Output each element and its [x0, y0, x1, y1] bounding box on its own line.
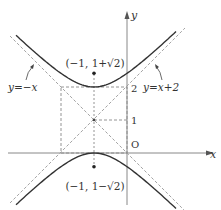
origin-label: O: [131, 139, 139, 150]
focus-lower-dot: [92, 165, 96, 169]
tick-label-1: 1: [131, 115, 137, 126]
focus-lower-label: (−1, 1−√2): [65, 180, 124, 192]
y-axis-arrow-icon: [125, 11, 130, 19]
leader-arrow-icon: [155, 64, 159, 69]
asymptote-label-x-plus-2: y=x+2: [142, 81, 179, 93]
x-axis-label: x: [210, 148, 217, 161]
hyperbola-figure: y x O 2 1 (−1, 1+√2) (−1, 1−√2) y=−x y=x…: [0, 0, 221, 210]
focus-upper-label: (−1, 1+√2): [65, 57, 124, 69]
center-dot: [93, 119, 96, 122]
asymptote-label-neg-x: y=−x: [7, 81, 38, 93]
focus-upper-dot: [92, 72, 96, 76]
tick-label-2: 2: [131, 83, 137, 94]
y-axis-label: y: [130, 9, 138, 22]
